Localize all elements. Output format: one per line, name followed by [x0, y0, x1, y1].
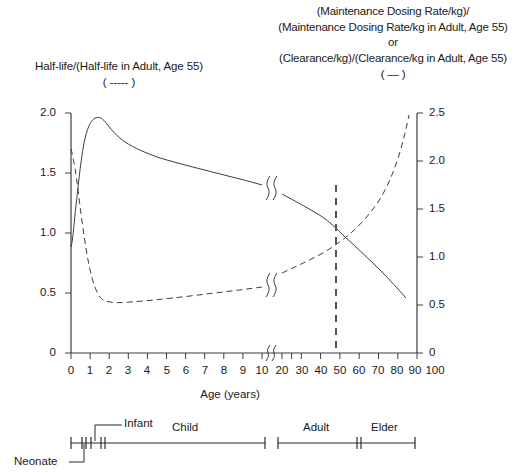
- xtick-5: 5: [157, 364, 177, 376]
- category-label-child: Child: [172, 421, 198, 433]
- series-clearance-solid-left: [71, 117, 262, 247]
- ytick-right-2-0: 2.0: [429, 154, 463, 166]
- xtick-100: 100: [421, 364, 449, 376]
- ytick-right-0-5: 0.5: [429, 298, 463, 310]
- x-axis-title: Age (years): [0, 388, 460, 400]
- category-label-neonate: Neonate: [14, 455, 57, 467]
- series-clearance-solid-right: [282, 194, 406, 298]
- series-halflife-dashed-right: [282, 115, 409, 273]
- xtick-3: 3: [118, 364, 138, 376]
- xtick-1: 1: [80, 364, 100, 376]
- ytick-left-1-5: 1.5: [22, 166, 56, 178]
- xtick-7: 7: [195, 364, 215, 376]
- y-axis-left-ticks: [65, 113, 71, 353]
- ytick-left-2-0: 2.0: [22, 106, 56, 118]
- ytick-right-1-0: 1.0: [429, 250, 463, 262]
- ytick-right-0: 0: [429, 346, 463, 358]
- x-axis-ticks: [71, 353, 417, 359]
- category-label-infant: Infant: [124, 417, 153, 429]
- pharmacokinetic-age-figure: Half-life/(Half-life in Adult, Age 55) (…: [0, 0, 525, 473]
- xtick-6: 6: [176, 364, 196, 376]
- infant-leader-line: [95, 425, 122, 441]
- category-label-adult: Adult: [303, 421, 329, 433]
- ytick-left-0-5: 0.5: [22, 286, 56, 298]
- dashed-curve-break-marker: [266, 273, 277, 297]
- ytick-left-0: 0: [22, 346, 56, 358]
- xtick-8: 8: [214, 364, 234, 376]
- xtick-0: 0: [61, 364, 81, 376]
- series-halflife-dashed-left: [71, 149, 262, 303]
- xtick-4: 4: [137, 364, 157, 376]
- ytick-right-2-5: 2.5: [429, 106, 463, 118]
- ytick-right-1-5: 1.5: [429, 202, 463, 214]
- ytick-left-1-0: 1.0: [22, 226, 56, 238]
- category-label-elder: Elder: [371, 421, 398, 433]
- plot-area: [0, 0, 525, 473]
- y-axis-right-ticks: [417, 113, 423, 353]
- solid-curve-break-marker: [266, 176, 277, 200]
- xtick-2: 2: [99, 364, 119, 376]
